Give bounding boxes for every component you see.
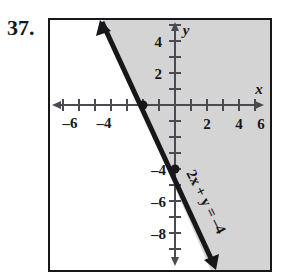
x-tick-label-6: 6	[257, 116, 265, 132]
figure-root: 37.	[0, 0, 284, 277]
y-tick-label-4: 4	[155, 34, 163, 50]
y-tick-label--6: –6	[150, 194, 167, 210]
point-y-intercept	[171, 165, 180, 174]
x-tick-label--6: –6	[62, 115, 79, 131]
x-tick-label-2: 2	[203, 116, 211, 132]
y-tick-label--4: –4	[150, 162, 167, 178]
graph-frame: –6 –4 2 4 6 4 2 –4 –6 –8 x y 2x + y = –4	[48, 18, 272, 272]
shaded-region	[98, 20, 270, 270]
coordinate-plane: –6 –4 2 4 6 4 2 –4 –6 –8 x y 2x + y = –4	[50, 20, 270, 270]
x-axis-label: x	[254, 81, 263, 97]
y-axis-label: y	[181, 22, 190, 38]
x-tick-label--4: –4	[96, 115, 113, 131]
x-tick-label-4: 4	[235, 116, 243, 132]
y-tick-label-2: 2	[155, 66, 163, 82]
y-tick-label--8: –8	[150, 226, 166, 242]
problem-number: 37.	[7, 17, 35, 39]
point-x-intercept	[139, 101, 148, 110]
